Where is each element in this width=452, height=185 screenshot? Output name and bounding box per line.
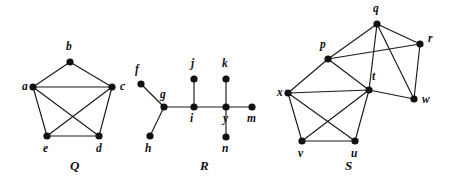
edge-u-t bbox=[355, 90, 369, 141]
edge-p-q bbox=[328, 24, 377, 59]
edge-a-e bbox=[33, 87, 47, 136]
vertex-label-j: j bbox=[189, 57, 195, 70]
edge-a-d bbox=[33, 87, 99, 136]
vertex-label-n: n bbox=[222, 142, 228, 154]
vertex-label-f: f bbox=[135, 63, 140, 76]
graph-caption-r: R bbox=[199, 158, 209, 173]
graph-figure: abcdeQfghijkymnRqprtwxvuS bbox=[0, 0, 452, 185]
vertex-label-a: a bbox=[22, 80, 28, 92]
vertex-label-c: c bbox=[120, 80, 125, 92]
vertex-u bbox=[351, 137, 358, 144]
vertex-q bbox=[373, 20, 380, 27]
edge-g-h bbox=[150, 107, 164, 136]
vertex-label-w: w bbox=[422, 93, 430, 105]
vertex-d bbox=[95, 132, 102, 139]
vertex-g bbox=[160, 103, 167, 110]
vertex-f bbox=[137, 80, 144, 87]
vertex-t bbox=[365, 86, 372, 93]
edge-v-t bbox=[302, 90, 369, 141]
vertex-label-p: p bbox=[319, 38, 326, 51]
graph-caption-s: S bbox=[345, 158, 352, 173]
edge-t-w bbox=[369, 90, 414, 99]
vertex-y bbox=[222, 103, 229, 110]
vertex-j bbox=[190, 75, 197, 82]
vertex-m bbox=[248, 103, 255, 110]
graph-s: qprtwxvuS bbox=[276, 2, 433, 173]
vertex-a bbox=[29, 83, 36, 90]
graph-q: abcdeQ bbox=[22, 40, 125, 173]
vertex-label-i: i bbox=[190, 112, 194, 124]
vertex-e bbox=[43, 132, 50, 139]
vertex-w bbox=[410, 95, 417, 102]
vertex-label-k: k bbox=[222, 57, 228, 69]
vertex-label-b: b bbox=[66, 40, 72, 52]
vertex-p bbox=[324, 55, 331, 62]
edge-q-w bbox=[377, 24, 414, 99]
edge-c-e bbox=[47, 87, 112, 136]
vertex-i bbox=[190, 103, 197, 110]
edge-x-v bbox=[288, 93, 302, 141]
edge-q-r bbox=[377, 24, 420, 44]
vertex-label-x: x bbox=[276, 86, 283, 98]
vertex-k bbox=[222, 75, 229, 82]
edge-b-c bbox=[70, 62, 112, 87]
edge-x-u bbox=[288, 93, 355, 141]
edge-r-w bbox=[414, 44, 420, 99]
graph-caption-q: Q bbox=[70, 158, 80, 173]
vertex-label-m: m bbox=[247, 112, 256, 124]
vertex-label-d: d bbox=[96, 142, 102, 154]
graph-canvas: abcdeQfghijkymnRqprtwxvuS bbox=[0, 0, 452, 185]
vertex-b bbox=[66, 58, 73, 65]
vertex-h bbox=[146, 132, 153, 139]
vertex-label-v: v bbox=[298, 147, 304, 159]
vertex-n bbox=[222, 133, 229, 140]
vertex-label-e: e bbox=[43, 142, 48, 154]
edge-x-t bbox=[288, 90, 369, 93]
edge-p-t bbox=[328, 59, 369, 90]
edge-p-x bbox=[288, 59, 328, 93]
edge-a-b bbox=[33, 62, 70, 87]
graph-r: fghijkymnR bbox=[135, 57, 256, 173]
vertex-label-t: t bbox=[372, 70, 376, 82]
vertex-r bbox=[416, 40, 423, 47]
vertex-label-r: r bbox=[428, 32, 433, 44]
edge-c-d bbox=[99, 87, 112, 136]
vertex-v bbox=[298, 137, 305, 144]
vertex-label-y: y bbox=[221, 112, 229, 125]
vertex-x bbox=[284, 89, 291, 96]
vertex-label-g: g bbox=[159, 88, 166, 101]
vertex-label-h: h bbox=[145, 142, 151, 154]
vertex-c bbox=[108, 83, 115, 90]
vertex-label-q: q bbox=[373, 2, 379, 15]
